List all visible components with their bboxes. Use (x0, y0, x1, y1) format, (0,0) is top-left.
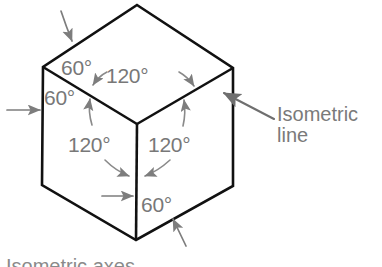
callout-line-2: line (277, 125, 358, 146)
callout-line-1: Isometric (277, 104, 358, 125)
arrow-isometric-line-callout (224, 93, 274, 119)
angle-label-left-60: 60° (44, 87, 75, 109)
arc-right-inner (183, 100, 185, 126)
isometric-line-callout-label: Isometric line (277, 104, 358, 146)
angle-label-top-left-60: 60° (61, 57, 92, 79)
angle-arcs (89, 72, 194, 176)
arrow-bottom-right-edge (173, 219, 186, 246)
angle-label-top-120: 120° (106, 65, 148, 87)
arc-lower-right-120 (145, 160, 170, 176)
arc-top-120-right (179, 72, 194, 86)
arc-top-120-left (93, 72, 107, 85)
isometric-cube-figure: 60° 120° 60° 120° 120° 60° Isometric lin… (0, 0, 382, 267)
angle-label-lower-left-120: 120° (68, 134, 110, 156)
arc-lower-left-120 (105, 160, 129, 176)
cube-outline (42, 5, 233, 240)
angle-label-lower-right-120: 120° (148, 134, 190, 156)
clipped-caption: Isometric axes (6, 256, 206, 267)
cube-edge-vertical (136, 124, 137, 240)
arrow-top-left-edge (61, 11, 72, 41)
arc-left-60 (89, 99, 92, 125)
angle-label-bottom-60: 60° (141, 194, 172, 216)
